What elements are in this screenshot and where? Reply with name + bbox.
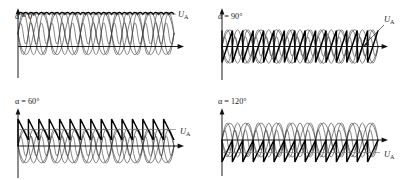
- waveform-figure: α = 0° UA α = 90°: [0, 0, 409, 180]
- panel-alpha-0: α = 0° UA: [15, 8, 189, 78]
- signal-label-alpha-60: UA: [180, 127, 191, 137]
- panel-alpha-60: α = 60° UA: [15, 97, 191, 178]
- panel-label-alpha-60: α = 60°: [15, 97, 39, 106]
- signal-label-subscript-alpha-120: A: [390, 154, 395, 160]
- panel-alpha-120: α = 120° UA: [218, 97, 395, 176]
- signal-label-alpha-120: UA: [384, 150, 395, 160]
- signal-label-subscript-alpha-90: A: [390, 19, 395, 25]
- signal-label-subscript-alpha-60: A: [186, 131, 191, 137]
- panel-label-alpha-120: α = 120°: [218, 97, 247, 106]
- conducting-trace-alpha-120: [222, 140, 378, 162]
- x-axis-arrowhead-alpha-90: [382, 44, 388, 49]
- x-axis-arrowhead-alpha-120: [382, 138, 388, 143]
- signal-label-subscript-alpha-0: A: [184, 14, 189, 20]
- x-axis-arrowhead-alpha-60: [178, 144, 184, 149]
- y-axis-arrowhead-alpha-60: [16, 108, 21, 114]
- panel-alpha-90: α = 90° UA: [218, 8, 395, 80]
- y-axis-arrowhead-alpha-120: [220, 108, 225, 114]
- sine-envelope-arcs: [18, 12, 174, 55]
- signal-label-alpha-90: UA: [384, 15, 395, 25]
- signal-label-alpha-0: UA: [178, 10, 189, 20]
- x-axis-arrowhead-alpha-0: [178, 44, 184, 49]
